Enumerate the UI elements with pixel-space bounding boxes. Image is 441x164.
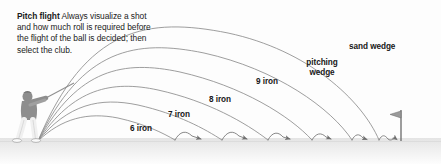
label-8-iron: 8 iron <box>209 95 231 105</box>
caption-block: Pitch flight Always visualize a shot and… <box>17 11 157 56</box>
golf-club-shaft <box>44 83 74 99</box>
label-pitching-wedge: pitching wedge <box>299 58 345 77</box>
pitch-flight-figure: Pitch flight Always visualize a shot and… <box>0 0 441 164</box>
trajectory-6-iron <box>38 116 175 141</box>
golfer-right-shoe <box>31 139 40 143</box>
label-7-iron: 7 iron <box>168 110 190 120</box>
golfer-left-shoe <box>12 139 21 143</box>
flag-pennant-icon <box>390 111 401 118</box>
label-6-iron: 6 iron <box>130 124 152 134</box>
label-9-iron: 9 iron <box>256 77 278 87</box>
caption-lead: Pitch flight <box>17 11 60 21</box>
flagstick <box>390 110 401 141</box>
label-sand-wedge: sand wedge <box>349 42 395 52</box>
trajectory-7-iron <box>38 102 222 141</box>
